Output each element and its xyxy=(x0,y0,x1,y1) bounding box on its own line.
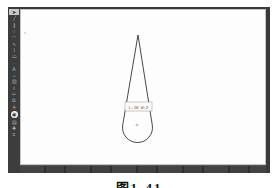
snap-tool-icon[interactable]: ◉ xyxy=(11,111,18,118)
center-point-marker xyxy=(136,124,139,127)
drawing-canvas[interactable]: L:10 W:2 xyxy=(20,9,266,165)
layer-tool-icon[interactable]: ≡ xyxy=(9,131,19,137)
move-tool-icon[interactable]: ✛ xyxy=(9,103,19,109)
stray-mark xyxy=(24,32,26,34)
figure-caption: 图1-41 xyxy=(8,177,270,188)
snap-tooltip: L:10 W:2 xyxy=(125,102,152,111)
teardrop-shape[interactable] xyxy=(123,35,153,143)
app-window: ➤╱∥○◠∿⌇▭·A↔▨◊✂⧉✛◉▤✚≡ L:10 W:2 xyxy=(8,7,270,173)
snap-tooltip-text: L:10 W:2 xyxy=(129,105,149,110)
drawing-toolbar[interactable]: ➤╱∥○◠∿⌇▭·A↔▨◊✂⧉✛◉▤✚≡ xyxy=(8,7,20,173)
status-bar xyxy=(20,165,266,173)
canvas-drawing-layer: L:10 W:2 xyxy=(21,10,265,164)
